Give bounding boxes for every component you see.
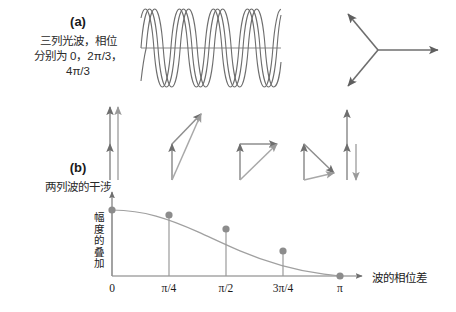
phasor-b-phase-3pi-4 — [304, 144, 334, 173]
phasor-pair-phase-0 — [110, 107, 118, 180]
phasor-pairs-svg — [100, 100, 360, 186]
chart-point-3pi-4 — [279, 247, 286, 254]
amplitude-chart-svg — [100, 186, 390, 282]
chart-point-pi-4 — [165, 211, 172, 218]
chart-tick-label-0: 0 — [92, 282, 132, 294]
panel-a-caption-line2: 分别为 0，2π/3， — [10, 49, 146, 64]
phasor-b-phase-pi-4 — [172, 114, 201, 144]
phasor-pair-phase-pi-2 — [240, 144, 277, 180]
phasor-pair-row — [100, 100, 360, 186]
chart-y-axis-title: 幅度的叠加 — [93, 212, 105, 270]
phasor-pair-phase-pi — [347, 110, 356, 180]
figure-root: (a) 三列光波，相位 分别为 0，2π/3， 4π/3 (b) — [0, 0, 456, 312]
chart-point-pi-2 — [222, 225, 229, 232]
chart-point-0 — [108, 206, 115, 213]
chart-tick-label-3pi-4: 3π/4 — [263, 282, 303, 294]
amplitude-chart — [100, 186, 390, 282]
phasor-pair-phase-pi-4 — [172, 114, 201, 180]
resultant-phase-3pi-4 — [304, 173, 334, 180]
panel-a-caption: 三列光波，相位 分别为 0，2π/3， 4π/3 — [10, 34, 146, 79]
phasor-star-arm-240deg — [348, 50, 378, 86]
waveform-svg — [141, 6, 281, 90]
chart-tick-label-pi-4: π/4 — [149, 282, 189, 294]
phasor-star-arm-120deg — [348, 14, 378, 50]
phasor-pair-phase-3pi-4 — [304, 144, 334, 180]
chart-point-pi — [336, 272, 343, 279]
panel-a-waveform-plot — [141, 6, 281, 90]
phasor-star-svg — [348, 6, 448, 92]
chart-x-axis-title: 波的相位差 — [372, 269, 427, 285]
panel-a-label: (a) — [18, 14, 138, 29]
chart-tick-label-pi-2: π/2 — [206, 282, 246, 294]
chart-tick-label-pi: π — [320, 282, 360, 294]
resultant-phase-pi-4 — [172, 114, 201, 180]
panel-a-caption-line1: 三列光波，相位 — [10, 34, 146, 49]
panel-a-phasor-star — [348, 6, 448, 92]
resultant-phase-pi-2 — [240, 144, 277, 180]
panel-a-caption-line3: 4π/3 — [10, 64, 146, 79]
